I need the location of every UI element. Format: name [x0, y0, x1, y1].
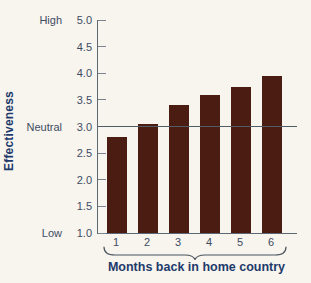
bar-month-1: [107, 137, 127, 233]
y-tick-mark-4.0: [98, 73, 106, 74]
x-axis-title: Months back in home country: [97, 260, 296, 274]
y-tick-mark-4.5: [98, 46, 106, 47]
bar-month-3: [169, 105, 189, 233]
y-tick-mark-1.5: [98, 206, 106, 207]
neutral-reference-line: [98, 126, 297, 127]
bar-month-2: [138, 124, 158, 233]
bar-month-4: [200, 95, 220, 233]
y-tick-mark-2.5: [98, 153, 106, 154]
y-tick-mark-5.0: [98, 20, 106, 21]
y-tick-mark-3.5: [98, 99, 106, 100]
y-axis-label-row-4.0: 4.0: [0, 66, 92, 80]
y-annotation-high: High: [39, 14, 62, 26]
bar-month-6: [262, 76, 282, 233]
y-tick-label: 4.5: [69, 41, 92, 53]
y-annotation-neutral: Neutral: [27, 121, 62, 133]
effectiveness-bar-chart: Effectiveness Low1.01.52.02.5Neutral3.03…: [0, 0, 311, 283]
y-tick-label: 3.5: [69, 94, 92, 106]
y-annotation-low: Low: [42, 227, 62, 239]
y-axis-label-row-4.5: 4.5: [0, 40, 92, 54]
y-tick-label: 3.0: [69, 121, 92, 133]
y-axis-label-row-1.5: 1.5: [0, 199, 92, 213]
plot-area: [97, 20, 297, 234]
bar-month-5: [231, 87, 251, 233]
y-tick-label: 5.0: [69, 14, 92, 26]
y-axis-label-row-1.0: Low1.0: [0, 226, 92, 240]
y-axis-label-row-3.5: 3.5: [0, 93, 92, 107]
x-axis-underbrace: [103, 246, 287, 260]
y-tick-label: 1.5: [69, 200, 92, 212]
y-axis-label-row-2.0: 2.0: [0, 173, 92, 187]
y-tick-mark-1.0: [98, 233, 106, 234]
y-tick-label: 2.0: [69, 174, 92, 186]
y-axis-label-row-2.5: 2.5: [0, 146, 92, 160]
y-axis-label-row-3.0: Neutral3.0: [0, 120, 92, 134]
y-tick-label: 4.0: [69, 67, 92, 79]
y-tick-label: 1.0: [69, 227, 92, 239]
y-axis-label-row-5.0: High5.0: [0, 13, 92, 27]
y-tick-label: 2.5: [69, 147, 92, 159]
y-tick-mark-2.0: [98, 179, 106, 180]
